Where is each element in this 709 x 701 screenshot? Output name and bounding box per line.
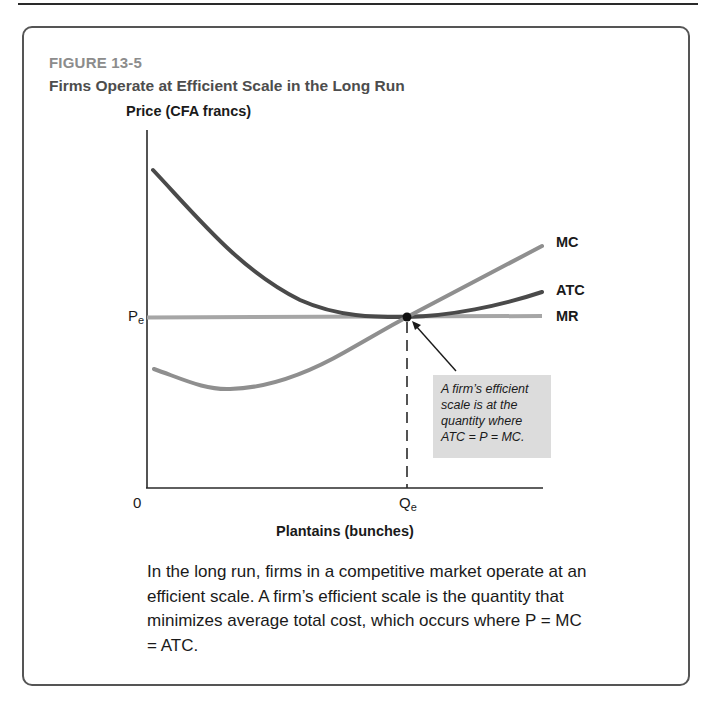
qe-tick-label: Qe (399, 494, 417, 513)
qe-main: Q (399, 494, 411, 511)
origin-label: 0 (133, 494, 141, 511)
pe-main: P (128, 307, 138, 324)
pe-subscript: e (138, 314, 144, 326)
callout-line-3: quantity where (441, 413, 545, 429)
efficient-scale-point (403, 313, 412, 322)
callout-line-2: scale is at the (441, 397, 545, 413)
callout-arrow-line (416, 326, 456, 371)
callout-line-4: ATC = P = MC. (441, 429, 545, 445)
pe-tick-label: Pe (128, 307, 144, 326)
atc-curve (153, 170, 542, 317)
callout-arrow-head (412, 321, 421, 330)
mr-curve (147, 316, 542, 318)
mr-label: MR (556, 308, 579, 324)
qe-subscript: e (411, 501, 417, 513)
atc-label: ATC (556, 282, 585, 298)
efficient-scale-callout: A firm’s efficient scale is at the quant… (433, 375, 551, 458)
callout-line-1: A firm’s efficient (441, 381, 545, 397)
x-axis-label: Plantains (bunches) (276, 523, 414, 539)
mc-label: MC (556, 234, 579, 250)
figure-caption: In the long run, firms in a competitive … (147, 560, 587, 658)
